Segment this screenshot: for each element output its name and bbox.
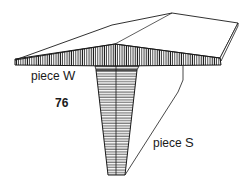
piece-s-body [96, 70, 137, 175]
piece-s-shoulder [95, 66, 139, 70]
piece-s-post [95, 66, 139, 175]
figure-number: 76 [55, 96, 68, 110]
piece-w-board [15, 13, 238, 66]
label-piece-w: piece W [31, 68, 75, 83]
label-piece-s: piece S [153, 135, 194, 150]
joint-diagram [0, 0, 246, 190]
